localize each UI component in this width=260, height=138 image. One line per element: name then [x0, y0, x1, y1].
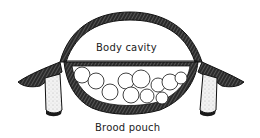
brood-pouch-label: Brood pouch [95, 122, 160, 133]
diagram-drawing [0, 0, 260, 138]
egg [74, 67, 90, 83]
egg [102, 84, 118, 100]
egg [88, 73, 104, 89]
egg [123, 87, 139, 103]
body-cavity-label: Body cavity [96, 42, 157, 53]
left-leg [45, 74, 62, 116]
egg [140, 89, 154, 103]
brood-pouch-cross-section-diagram: Body cavity Brood pouch [0, 0, 260, 138]
dorsal-body-wall [60, 12, 202, 62]
right-leg [200, 74, 217, 116]
egg [132, 70, 150, 88]
egg [118, 73, 134, 89]
egg [156, 92, 168, 104]
egg [175, 72, 187, 84]
